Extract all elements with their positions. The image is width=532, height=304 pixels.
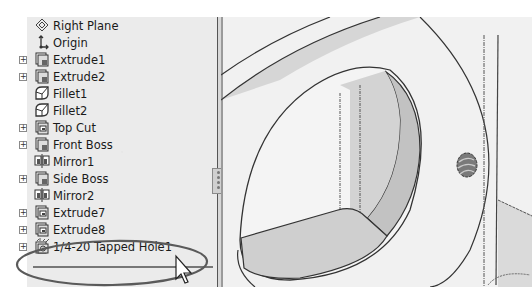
tree-item-label: Fillet2 [53, 104, 87, 118]
tree-item-label: Mirror1 [53, 155, 94, 169]
origin-icon [34, 34, 50, 50]
extrude-icon [34, 136, 50, 152]
cut-extrude-icon [34, 204, 50, 220]
fillet-icon [34, 102, 50, 118]
tree-item-label: Extrude8 [53, 223, 105, 237]
tree-item-label: Extrude7 [53, 206, 105, 220]
hole-wizard-icon [34, 238, 50, 254]
cut-extrude-icon [34, 119, 50, 135]
tree-item-label: Mirror2 [53, 189, 94, 203]
mirror-icon [34, 153, 50, 169]
tree-item-label: Extrude1 [53, 53, 105, 67]
extrude-icon [34, 68, 50, 84]
mirror-icon [34, 187, 50, 203]
extrude-icon [34, 51, 50, 67]
expand-toggle[interactable]: + [19, 209, 27, 217]
fillet-icon [34, 85, 50, 101]
extrude-icon [34, 170, 50, 186]
tree-item-label: Right Plane [53, 19, 118, 33]
tree-item-label: Origin [53, 36, 88, 50]
expand-toggle[interactable]: + [19, 124, 27, 132]
feature-manager-tree[interactable]: Right Plane Origin + Extrude1 + Extrude2… [27, 17, 217, 287]
tree-item-label: Fillet1 [53, 87, 87, 101]
model-geometry [221, 17, 532, 287]
expand-toggle[interactable]: + [19, 56, 27, 64]
expand-toggle[interactable]: + [19, 73, 27, 81]
tree-item-label: Top Cut [53, 121, 96, 135]
tree-item-label: Extrude2 [53, 70, 105, 84]
cut-extrude-icon [34, 221, 50, 237]
expand-toggle[interactable]: + [19, 226, 27, 234]
expand-toggle[interactable]: + [19, 243, 27, 251]
tree-item-label: 1/4-20 Tapped Hole1 [53, 240, 172, 254]
tree-item-label: Front Boss [53, 138, 113, 152]
plane-icon [34, 17, 50, 33]
rollback-bar[interactable] [33, 266, 213, 268]
graphics-viewport[interactable] [221, 17, 532, 287]
expand-toggle[interactable]: + [19, 175, 27, 183]
tree-item-label: Side Boss [53, 172, 108, 186]
expand-toggle[interactable]: + [19, 141, 27, 149]
